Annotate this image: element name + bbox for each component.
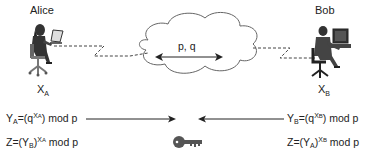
alice-secret-label: XA (37, 83, 49, 97)
alice-public-equation: YA=(qXA) mod p (6, 112, 77, 125)
person-at-laptop-icon (29, 24, 64, 77)
alice-label: Alice (30, 4, 54, 16)
person-at-computer-icon (312, 26, 351, 78)
bob-shared-equation: Z=(YA)XB mod p (287, 136, 359, 149)
bob-label: Bob (315, 4, 335, 16)
alice-link-dashed (54, 46, 148, 56)
key-icon (173, 136, 202, 148)
arrow-right-icon (86, 116, 176, 123)
cloud-public-params: p, q (178, 40, 196, 52)
cloud-icon (139, 12, 257, 73)
bob-public-equation: YB=(qXB) mod p (287, 112, 358, 125)
arrow-left-icon (198, 116, 284, 123)
alice-shared-equation: Z=(YB)XA mod p (6, 136, 78, 149)
bob-secret-label: XB (318, 83, 330, 97)
bob-link-dashed (253, 48, 315, 58)
